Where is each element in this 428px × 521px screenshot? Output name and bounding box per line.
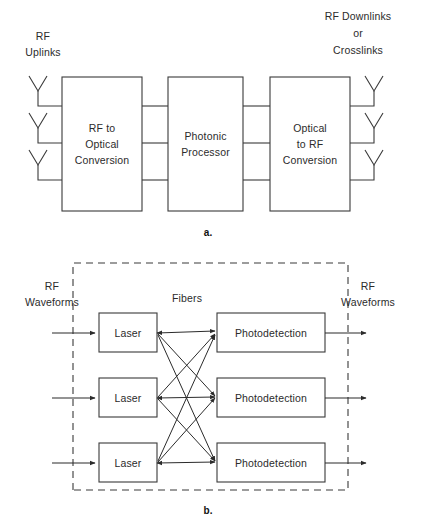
uplink-antenna-3 xyxy=(29,150,62,180)
block-rf-to-optical-label-line2: Optical xyxy=(85,138,119,150)
rf-waveforms-in-label-line2: Waveforms xyxy=(25,296,79,308)
rf-downlinks-label-line3: Crosslinks xyxy=(333,44,383,56)
figure-canvas: RF Uplinks RF Downlinks or Crosslinks RF… xyxy=(0,0,428,521)
downlink-antenna-3 xyxy=(350,150,383,180)
block-optical-to-rf-label-line2: to RF xyxy=(297,138,323,150)
fiber-link-1-1 xyxy=(157,331,215,333)
fiber-link-2-2 xyxy=(157,397,215,398)
panel-b: RF Waveforms Fibers RF Waveforms Laser P… xyxy=(25,263,395,516)
block-photonic-processor xyxy=(168,77,243,211)
block-photonic-processor-label-line1: Photonic xyxy=(184,130,226,142)
rf-uplinks-label-line1: RF xyxy=(36,30,50,42)
block-photonic-processor-label-line2: Processor xyxy=(181,146,230,158)
panel-b-caption: b. xyxy=(204,505,213,516)
block-photodetection-row-2-label: Photodetection xyxy=(235,392,307,404)
block-rf-to-optical-label-line3: Conversion xyxy=(75,154,130,166)
figure-root: RF Uplinks RF Downlinks or Crosslinks RF… xyxy=(0,0,428,521)
block-photodetection-row-1-label: Photodetection xyxy=(235,327,307,339)
block-laser-row-3-label: Laser xyxy=(114,457,141,469)
uplink-antenna-1 xyxy=(29,76,62,106)
panel-a: RF Uplinks RF Downlinks or Crosslinks RF… xyxy=(25,10,391,238)
fiber-link-3-3 xyxy=(157,462,215,463)
uplink-antenna-2 xyxy=(29,113,62,143)
block-optical-to-rf-label-line1: Optical xyxy=(293,122,327,134)
block-rf-to-optical-label-line1: RF to xyxy=(89,122,115,134)
rf-downlinks-label-line2: or xyxy=(353,27,363,39)
downlink-antenna-1 xyxy=(350,76,383,106)
block-photodetection-row-3-label: Photodetection xyxy=(235,457,307,469)
block-laser-row-1-label: Laser xyxy=(114,327,141,339)
fibers-label: Fibers xyxy=(172,292,202,304)
rf-waveforms-in-label-line1: RF xyxy=(45,280,59,292)
block-optical-to-rf-label-line3: Conversion xyxy=(283,154,338,166)
rf-waveforms-out-label-line2: Waveforms xyxy=(341,296,395,308)
rf-waveforms-out-label-line1: RF xyxy=(361,280,375,292)
rf-downlinks-label-line1: RF Downlinks xyxy=(325,10,392,22)
rf-uplinks-label-line2: Uplinks xyxy=(25,46,60,58)
block-laser-row-2-label: Laser xyxy=(114,392,141,404)
downlink-antenna-2 xyxy=(350,113,383,143)
panel-a-caption: a. xyxy=(204,227,213,238)
